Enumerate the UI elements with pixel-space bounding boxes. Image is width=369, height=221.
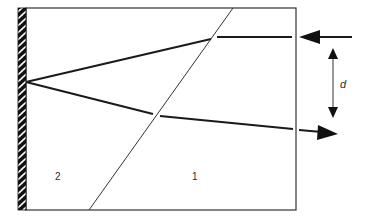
incoming-arrow-icon [299, 30, 352, 44]
outgoing-ray-medium-1 [160, 116, 293, 129]
region-2-label: 2 [55, 171, 61, 182]
separation-label: d [340, 78, 346, 90]
outgoing-ray-medium-2 [26, 82, 153, 114]
refraction-diagram [0, 0, 369, 221]
region-1-label: 1 [192, 171, 198, 182]
incoming-ray-medium-2 [26, 39, 211, 82]
interface-line [89, 8, 233, 210]
separation-arrow-icon [328, 48, 338, 118]
outgoing-arrow-icon [299, 125, 338, 140]
hatched-wall [18, 8, 26, 210]
